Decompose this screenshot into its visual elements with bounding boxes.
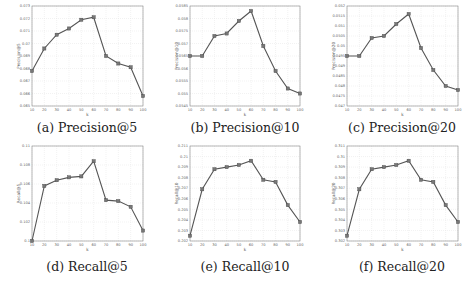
x-tick-label: 50	[79, 243, 84, 247]
y-tick-label: 0.0515	[332, 14, 345, 18]
subfigure-caption: (e) Recall@10	[185, 259, 305, 274]
y-tick-label: 0.057	[178, 42, 188, 46]
x-tick-label: 40	[382, 108, 387, 112]
x-tick-label: 30	[369, 108, 374, 112]
y-axis-label: Precision@10	[174, 42, 179, 71]
x-tick-label: 50	[394, 243, 399, 247]
data-point-marker	[104, 199, 107, 202]
y-tick-label: 0.303	[335, 229, 345, 233]
data-point-marker	[141, 229, 144, 232]
data-point-marker	[188, 234, 191, 237]
data-point-marker	[274, 180, 277, 183]
y-axis-label: Recall@5	[16, 183, 21, 203]
chart-panel-1: 0.0650.0660.0670.0680.0690.070.0710.0720…	[32, 6, 143, 106]
data-point-marker	[225, 32, 228, 35]
x-tick-label: 70	[261, 243, 266, 247]
y-tick-label: 0.305	[335, 208, 345, 212]
x-tick-label: 80	[116, 108, 121, 112]
y-tick-label: 0.068	[20, 67, 31, 71]
data-point-marker	[370, 168, 373, 171]
x-tick-label: 40	[224, 243, 229, 247]
x-tick-label: 80	[273, 243, 278, 247]
y-tick-label: 0.21	[180, 155, 188, 159]
data-point-marker	[92, 16, 95, 19]
data-point-marker	[286, 204, 289, 207]
x-tick-label: 20	[42, 243, 47, 247]
y-tick-label: 0.205	[178, 208, 188, 212]
x-tick-label: 30	[212, 243, 217, 247]
x-tick-label: 60	[91, 108, 96, 112]
y-tick-label: 0.065	[20, 104, 30, 108]
x-tick-label: 100	[297, 108, 305, 112]
x-tick-label: 90	[128, 108, 133, 112]
y-tick-label: 0.071	[20, 29, 30, 33]
x-tick-label: 10	[345, 243, 350, 247]
series-line	[190, 161, 300, 236]
data-point-marker	[274, 69, 277, 72]
x-tick-label: 10	[188, 243, 193, 247]
y-tick-label: 0.05	[337, 44, 345, 48]
x-tick-label: 100	[297, 243, 305, 247]
line-chart: 0.10.1020.1040.1060.1080.111020304050607…	[32, 146, 143, 241]
data-point-marker	[407, 159, 410, 162]
data-point-marker	[129, 205, 132, 208]
chart-panel-3: 0.0470.04750.0480.04850.0490.04950.050.0…	[347, 6, 458, 106]
data-point-marker	[432, 68, 435, 71]
subfigure-caption: (a) Precision@5	[27, 120, 147, 135]
y-tick-label: 0.072	[20, 17, 30, 21]
data-point-marker	[432, 180, 435, 183]
subfigure-caption: (f) Recall@20	[342, 259, 462, 274]
x-tick-label: 30	[369, 243, 374, 247]
series-line	[347, 161, 458, 236]
y-tick-label: 0.073	[20, 4, 30, 8]
chart-panel-5: 0.2020.2030.2040.2050.2060.2070.2080.209…	[190, 146, 300, 241]
data-point-marker	[201, 188, 204, 191]
x-tick-label: 70	[104, 108, 109, 112]
plot-frame	[347, 146, 458, 241]
y-tick-label: 0.208	[178, 176, 189, 180]
y-tick-label: 0.051	[335, 24, 345, 28]
y-tick-label: 0.311	[335, 144, 345, 148]
data-point-marker	[262, 178, 265, 181]
data-point-marker	[345, 54, 348, 57]
y-tick-label: 0.207	[178, 186, 188, 190]
y-tick-label: 0.102	[20, 220, 30, 224]
data-point-marker	[444, 84, 447, 87]
data-point-marker	[43, 47, 46, 50]
x-tick-label: 90	[443, 108, 448, 112]
data-point-marker	[80, 18, 83, 21]
y-tick-label: 0.108	[20, 163, 31, 167]
line-chart: 0.05450.0550.05550.0560.05650.0570.05750…	[190, 6, 300, 106]
data-point-marker	[262, 44, 265, 47]
x-tick-label: 60	[406, 243, 411, 247]
x-tick-label: 40	[67, 243, 72, 247]
data-point-marker	[395, 22, 398, 25]
x-tick-label: 60	[406, 108, 411, 112]
x-tick-label: 10	[30, 243, 35, 247]
y-tick-label: 0.304	[335, 218, 346, 222]
data-point-marker	[286, 87, 289, 90]
x-tick-label: 20	[42, 108, 47, 112]
y-tick-label: 0.055	[178, 92, 188, 96]
x-tick-label: 60	[249, 108, 254, 112]
x-tick-label: 60	[91, 243, 96, 247]
x-tick-label: 30	[54, 108, 59, 112]
line-chart: 0.2020.2030.2040.2050.2060.2070.2080.209…	[190, 146, 300, 241]
data-point-marker	[456, 88, 459, 91]
x-tick-label: 10	[30, 108, 35, 112]
y-tick-label: 0.204	[178, 218, 189, 222]
x-axis-label: k	[86, 112, 89, 117]
data-point-marker	[419, 178, 422, 181]
y-tick-label: 0.052	[335, 4, 345, 8]
data-point-marker	[30, 239, 33, 242]
data-point-marker	[345, 234, 348, 237]
data-point-marker	[225, 166, 228, 169]
y-axis-label: Recall@20	[331, 182, 336, 204]
data-point-marker	[104, 54, 107, 57]
x-tick-label: 70	[419, 108, 424, 112]
y-tick-label: 0.302	[335, 239, 345, 243]
x-tick-label: 100	[455, 243, 463, 247]
data-point-marker	[43, 184, 46, 187]
x-tick-label: 100	[455, 108, 463, 112]
y-tick-label: 0.0585	[175, 4, 188, 8]
